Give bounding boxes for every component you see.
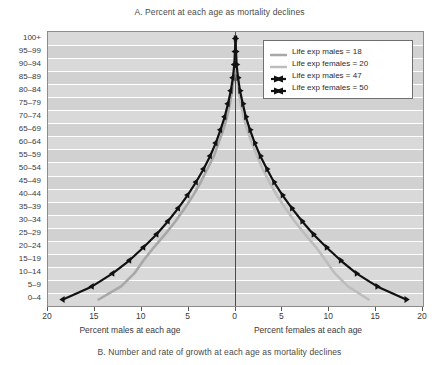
legend: Life exp males = 18Life exp females = 20… xyxy=(263,40,413,99)
x-axis-tick-label: 10 xyxy=(128,311,154,321)
y-axis-label: 15–19 xyxy=(19,254,41,263)
legend-label: Life exp females = 20 xyxy=(292,59,368,68)
y-axis-label: 65–69 xyxy=(19,124,41,133)
y-axis-label: 0–4 xyxy=(28,293,41,302)
x-axis-tick-label: 20 xyxy=(34,311,60,321)
legend-item: Life exp females = 50 xyxy=(270,81,406,93)
panel-b-title: B. Number and rate of growth at each age… xyxy=(0,347,439,357)
x-axis-caption-right: Percent females at each age xyxy=(218,325,398,335)
y-axis-label: 35–39 xyxy=(19,202,41,211)
series-marker xyxy=(405,296,410,303)
legend-item: Life exp females = 20 xyxy=(270,57,406,69)
y-axis-label: 10–14 xyxy=(19,267,41,276)
y-axis-label: 100+ xyxy=(23,33,41,42)
figure-root: A. Percent at each age as mortality decl… xyxy=(0,0,439,365)
y-axis-label: 85–89 xyxy=(19,72,41,81)
legend-label: Life exp males = 18 xyxy=(292,47,362,56)
legend-line-icon xyxy=(270,46,287,56)
x-axis-tick-label: 10 xyxy=(315,311,341,321)
x-axis-tick-label: 5 xyxy=(268,311,294,321)
legend-item: Life exp males = 47 xyxy=(270,69,406,81)
legend-item: Life exp males = 18 xyxy=(270,45,406,57)
y-axis-label: 25–29 xyxy=(19,228,41,237)
x-axis-tick-label: 0 xyxy=(222,311,248,321)
legend-line-icon xyxy=(270,58,287,68)
series-line-grey xyxy=(99,39,236,300)
series-marker xyxy=(59,296,64,303)
x-axis-labels: 201510505101520 xyxy=(0,311,439,323)
x-axis-tick-label: 20 xyxy=(409,311,435,321)
legend-label: Life exp females = 50 xyxy=(292,83,368,92)
legend-marker-icon xyxy=(270,70,287,80)
y-axis-label: 60–64 xyxy=(19,137,41,146)
legend-marker-icon xyxy=(270,82,287,92)
y-axis-label: 40–44 xyxy=(19,189,41,198)
y-axis-label: 20–24 xyxy=(19,241,41,250)
y-axis-label: 70–74 xyxy=(19,111,41,120)
legend-label: Life exp males = 47 xyxy=(292,71,362,80)
y-axis-label: 75–79 xyxy=(19,98,41,107)
x-axis-tick-label: 5 xyxy=(175,311,201,321)
y-axis-label: 5–9 xyxy=(28,280,41,289)
x-axis-caption-left: Percent males at each age xyxy=(40,325,220,335)
panel-a-title: A. Percent at each age as mortality decl… xyxy=(0,7,439,17)
x-axis-tick-label: 15 xyxy=(362,311,388,321)
y-axis-label: 45–49 xyxy=(19,176,41,185)
y-axis-labels: 100+95–9990–9485–8980–8475–7970–7465–696… xyxy=(0,31,44,307)
y-axis-label: 90–94 xyxy=(19,59,41,68)
y-axis-label: 95–99 xyxy=(19,46,41,55)
y-axis-label: 55–59 xyxy=(19,150,41,159)
y-axis-label: 80–84 xyxy=(19,85,41,94)
y-axis-label: 30–34 xyxy=(19,215,41,224)
x-axis-tick-label: 15 xyxy=(81,311,107,321)
y-axis-label: 50–54 xyxy=(19,163,41,172)
series-line-black xyxy=(63,39,236,300)
